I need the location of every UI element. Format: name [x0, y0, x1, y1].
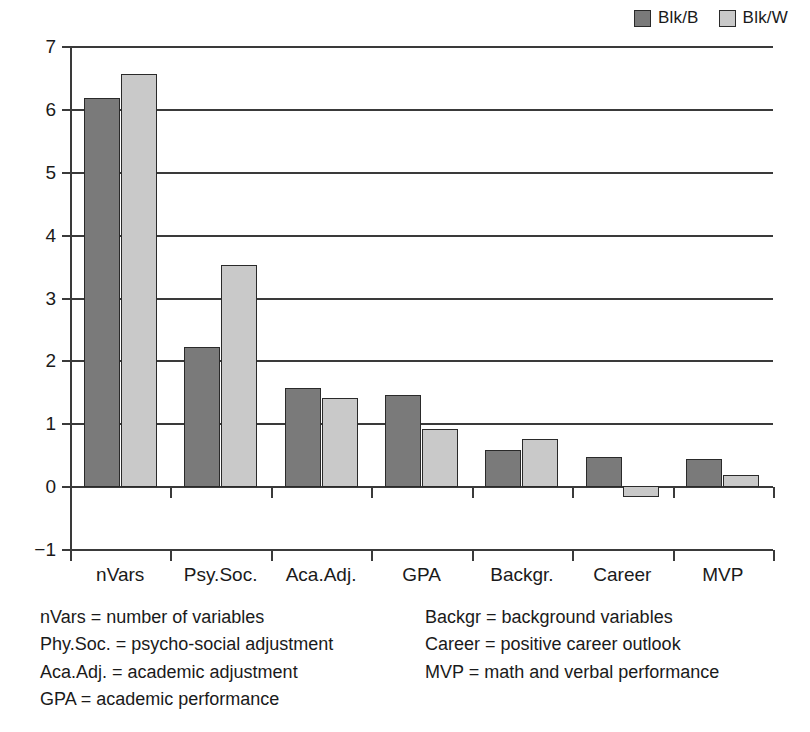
x-axis-label-nvars: nVars: [96, 564, 144, 586]
legend-label-blk-b: Blk/B: [658, 8, 699, 28]
x-tick-bottom-3: [371, 550, 373, 561]
note-gpa: GPA = academic performance: [40, 688, 425, 711]
x-tick-zero-1: [170, 487, 172, 498]
y-axis-label-6: 6: [45, 99, 56, 121]
x-axis-label-psysoc: Psy.Soc.: [184, 564, 258, 586]
y-axis-label-0: 0: [45, 476, 56, 498]
x-tick-end-1: [773, 550, 775, 561]
chart-legend: Blk/B Blk/W: [634, 8, 788, 28]
x-tick-zero-2: [271, 487, 273, 498]
y-axis-label-7: 7: [45, 36, 56, 58]
x-axis-label-mvp: MVP: [702, 564, 743, 586]
y-axis-label-5: 5: [45, 162, 56, 184]
note-backgr: Backgr = background variables: [425, 606, 780, 629]
x-tick-zero-0: [70, 487, 72, 498]
note-acaadj: Aca.Adj. = academic adjustment: [40, 661, 425, 684]
x-tick-bottom-6: [673, 550, 675, 561]
legend-item-blk-w: Blk/W: [719, 8, 788, 28]
y-axis-label-3: 3: [45, 288, 56, 310]
bar-series-layer: [70, 47, 773, 550]
y-axis-label-2: 2: [45, 350, 56, 372]
x-tick-zero-3: [371, 487, 373, 498]
bar-psysoc-blk-w: [221, 265, 257, 487]
notes-column-right: Backgr = background variables Career = p…: [425, 606, 780, 712]
x-tick-bottom-1: [170, 550, 172, 561]
plot-area: 76543210−1: [70, 47, 773, 550]
bar-mvp-blk-w: [723, 475, 759, 487]
x-tick-zero-4: [472, 487, 474, 498]
legend-swatch-blk-w: [719, 10, 736, 27]
bar-chart-figure: Blk/B Blk/W 76543210−1 nVarsPsy.Soc.Aca.…: [0, 0, 810, 732]
x-tick-bottom-5: [572, 550, 574, 561]
x-tick-bottom-0: [70, 550, 72, 561]
notes-column-left: nVars = number of variables Phy.Soc. = p…: [40, 606, 425, 712]
legend-item-blk-b: Blk/B: [634, 8, 699, 28]
bar-acaadj-blk-b: [285, 388, 321, 487]
x-tick-end-0: [773, 487, 775, 498]
x-axis-label-backgr: Backgr.: [490, 564, 553, 586]
bar-mvp-blk-b: [686, 459, 722, 487]
bar-gpa-blk-b: [385, 395, 421, 487]
note-mvp: MVP = math and verbal performance: [425, 661, 780, 684]
bar-career-blk-b: [586, 457, 622, 487]
x-axis-label-gpa: GPA: [402, 564, 441, 586]
note-career: Career = positive career outlook: [425, 633, 780, 656]
abbreviation-notes: nVars = number of variables Phy.Soc. = p…: [40, 606, 780, 712]
bar-career-blk-w: [623, 486, 659, 497]
bar-backgr-blk-w: [522, 439, 558, 487]
bar-psysoc-blk-b: [184, 347, 220, 488]
x-tick-zero-5: [572, 487, 574, 498]
x-axis-label-acaadj: Aca.Adj.: [286, 564, 357, 586]
x-tick-bottom-2: [271, 550, 273, 561]
bar-backgr-blk-b: [485, 450, 521, 487]
bar-nvars-blk-w: [121, 74, 157, 487]
x-tick-bottom-4: [472, 550, 474, 561]
y-axis-label--1: −1: [34, 539, 56, 561]
legend-swatch-blk-b: [634, 10, 651, 27]
bar-acaadj-blk-w: [322, 398, 358, 487]
x-tick-zero-6: [673, 487, 675, 498]
note-physoc: Phy.Soc. = psycho-social adjustment: [40, 633, 425, 656]
y-axis-label-4: 4: [45, 225, 56, 247]
legend-label-blk-w: Blk/W: [743, 8, 788, 28]
y-axis-label-1: 1: [45, 413, 56, 435]
bar-gpa-blk-w: [422, 429, 458, 487]
note-nvars: nVars = number of variables: [40, 606, 425, 629]
x-axis-label-career: Career: [593, 564, 651, 586]
bar-nvars-blk-b: [84, 98, 120, 487]
